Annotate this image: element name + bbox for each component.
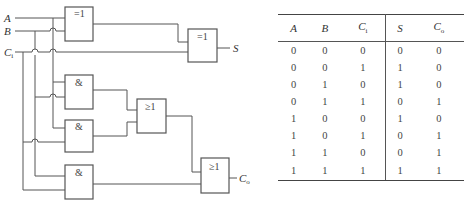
gate-or2-symbol: ≥1 (209, 161, 220, 172)
input-label-a: A (3, 12, 11, 24)
cell: 0 (386, 93, 414, 110)
cell: 0 (278, 93, 309, 110)
cell: 0 (414, 42, 464, 60)
wire-and1-out (93, 90, 137, 110)
gate-and1-symbol: & (75, 77, 83, 88)
wire-xor1-out (93, 24, 188, 42)
cell: 1 (414, 127, 464, 144)
wire-b-branch2 (35, 55, 65, 176)
truth-table-header-row: A B Ci S Co (278, 15, 464, 42)
wire-or1-out (166, 116, 201, 172)
table-row: 0 1 0 1 0 (278, 76, 464, 93)
header-co: Co (414, 15, 464, 42)
cell: 1 (386, 59, 414, 76)
table-row: 0 0 1 1 0 (278, 59, 464, 76)
output-label-co: Co (239, 172, 250, 186)
table-row: 0 0 0 0 0 (278, 42, 464, 60)
input-label-b: B (4, 25, 11, 37)
cell: 0 (340, 42, 385, 60)
table-row: 1 0 1 0 1 (278, 127, 464, 144)
cell: 0 (278, 76, 309, 93)
cell: 1 (386, 161, 414, 181)
wire-b-to-and1 (35, 94, 65, 97)
wire-ci-to-and2 (23, 139, 65, 142)
truth-table: A B Ci S Co 0 0 0 0 0 0 0 1 1 0 (278, 14, 464, 181)
cell: 0 (309, 59, 340, 76)
cell: 0 (278, 42, 309, 60)
cell: 1 (386, 110, 414, 127)
cell: 1 (340, 161, 385, 181)
truth-table-container: A B Ci S Co 0 0 0 0 0 0 0 1 1 0 (278, 14, 464, 181)
gate-or1-symbol: ≥1 (145, 101, 156, 112)
gate-xor1-symbol: =1 (74, 8, 85, 19)
cell: 1 (340, 93, 385, 110)
wire-ci (15, 49, 188, 52)
header-ci: Ci (340, 15, 385, 42)
table-row: 0 1 1 0 1 (278, 93, 464, 110)
cell: 1 (309, 93, 340, 110)
wire-ci-branch (23, 52, 65, 190)
cell: 0 (340, 144, 385, 161)
wire-a-branch (53, 18, 65, 128)
cell: 1 (414, 93, 464, 110)
cell: 0 (309, 42, 340, 60)
cell: 1 (278, 127, 309, 144)
header-a: A (278, 15, 309, 42)
header-b: B (309, 15, 340, 42)
cell: 1 (278, 161, 309, 181)
table-row: 1 0 0 1 0 (278, 110, 464, 127)
cell: 1 (309, 76, 340, 93)
wire-b (15, 28, 65, 31)
input-label-ci: Ci (4, 46, 13, 60)
gate-and3-symbol: & (75, 167, 83, 178)
output-label-s: S (233, 42, 239, 54)
cell: 1 (414, 144, 464, 161)
cell: 0 (340, 110, 385, 127)
cell: 0 (386, 144, 414, 161)
cell: 0 (414, 59, 464, 76)
cell: 0 (278, 59, 309, 76)
table-row: 1 1 1 1 1 (278, 161, 464, 181)
cell: 0 (309, 127, 340, 144)
cell: 0 (309, 110, 340, 127)
cell: 0 (414, 76, 464, 93)
table-row: 1 1 0 0 1 (278, 144, 464, 161)
cell: 0 (340, 76, 385, 93)
cell: 0 (414, 110, 464, 127)
cell: 1 (309, 144, 340, 161)
wire-and2-out (93, 122, 137, 136)
cell: 1 (340, 127, 385, 144)
cell: 1 (309, 161, 340, 181)
cell: 1 (340, 59, 385, 76)
cell: 1 (278, 144, 309, 161)
header-s: S (386, 15, 414, 42)
full-adder-circuit: =1 =1 & & ≥1 & ≥1 A B Ci S Co (0, 0, 270, 206)
cell: 1 (278, 110, 309, 127)
gate-and2-symbol: & (75, 121, 83, 132)
cell: 0 (386, 127, 414, 144)
gate-xor2-symbol: =1 (197, 31, 208, 42)
cell: 1 (414, 161, 464, 181)
cell: 1 (386, 76, 414, 93)
cell: 0 (386, 42, 414, 60)
